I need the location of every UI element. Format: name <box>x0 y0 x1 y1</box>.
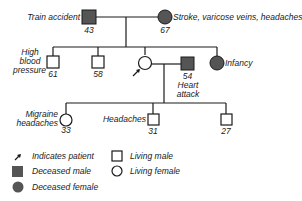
living-male-31 <box>148 114 159 125</box>
sibling1-age: 61 <box>47 70 59 79</box>
sibling1-condition-line3: pressure <box>13 66 46 75</box>
legend-deceased-female-icon <box>13 182 24 193</box>
sibling2-age: 58 <box>92 70 104 79</box>
legend-living-male-label: Living male <box>130 152 173 161</box>
living-male-61 <box>47 56 59 68</box>
deceased-male-spouse <box>181 57 194 70</box>
child1-age: 33 <box>58 126 74 135</box>
spouse-cause-line2: attack <box>172 90 204 99</box>
legend-living-female-icon <box>112 166 122 176</box>
mother-age: 67 <box>158 26 172 35</box>
legend-patient-label: Indicates patient <box>32 152 94 161</box>
legend-patient-icon <box>15 154 21 160</box>
father-age: 43 <box>82 26 96 35</box>
father-cause-label: Train accident <box>27 13 80 22</box>
sibling3-cause-label: Infancy <box>225 59 252 68</box>
living-male-27 <box>221 114 232 125</box>
legend-living-female-label: Living female <box>130 167 180 176</box>
child1-condition-line2: headaches <box>16 119 58 128</box>
child2-condition-label: Headaches <box>103 115 146 124</box>
deceased-male-father <box>82 10 96 24</box>
mother-cause-label: Stroke, varicose veins, headaches <box>173 13 302 22</box>
legend-deceased-male-icon <box>12 166 23 177</box>
living-male-58 <box>92 56 104 68</box>
patient-arrow-icon <box>133 69 140 76</box>
legend-living-male-icon <box>112 151 122 161</box>
legend-deceased-male-label: Deceased male <box>32 167 91 176</box>
legend-deceased-female-label: Deceased female <box>32 183 98 192</box>
patient-female <box>139 57 152 70</box>
child3-age: 27 <box>219 127 233 136</box>
child2-age: 31 <box>146 127 160 136</box>
deceased-female-mother <box>158 10 172 24</box>
deceased-female-infancy <box>210 56 224 70</box>
